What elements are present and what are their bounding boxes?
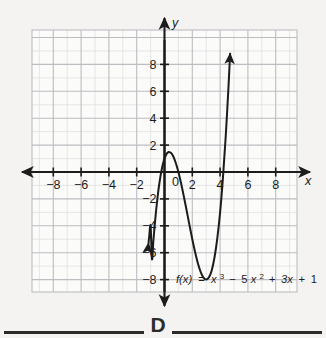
graph-figure: −8−6−4−224688642−2−4−6−8 0 x y f(x) = x … [0, 0, 326, 312]
tick-label: −2 [142, 192, 156, 206]
tick-label: 2 [150, 139, 157, 153]
term2-exponent: 2 [259, 272, 264, 281]
term2-coefficient: 5 [241, 273, 247, 285]
tick-label: −4 [142, 219, 156, 233]
tick-label: −6 [142, 246, 156, 260]
tick-label: −2 [130, 178, 144, 192]
coordinate-plane-svg: −8−6−4−224688642−2−4−6−8 0 x y f(x) = x … [0, 0, 326, 312]
tick-label: 4 [217, 178, 224, 192]
origin-label: 0 [172, 175, 179, 189]
y-axis-label: y [171, 16, 179, 30]
x-axis-label: x [304, 174, 312, 188]
term4-token: 1 [311, 273, 317, 285]
term3-token: 3x [281, 273, 293, 285]
tick-label: 8 [150, 58, 157, 72]
equals-token: = [198, 273, 205, 285]
tick-label: 2 [189, 178, 196, 192]
tick-label: 6 [150, 85, 157, 99]
tick-label: −4 [102, 178, 116, 192]
tick-label: −6 [74, 178, 88, 192]
footer-rule-left [4, 331, 144, 334]
minus-token: − [229, 273, 236, 285]
fx-token: f(x) [176, 273, 192, 285]
figure-choice-letter: D [144, 314, 172, 335]
tick-label: 6 [244, 178, 251, 192]
tick-label: −8 [46, 178, 60, 192]
figure-footer-rule: D [0, 326, 326, 338]
plus-token-1: + [269, 273, 276, 285]
tick-label: −8 [142, 273, 156, 287]
plus-token-2: + [299, 273, 306, 285]
footer-rule-right [172, 331, 322, 334]
tick-label: 4 [150, 112, 157, 126]
worksheet-page: −8−6−4−224688642−2−4−6−8 0 x y f(x) = x … [0, 0, 326, 338]
term1-base: x [210, 273, 217, 285]
term1-exponent: 3 [220, 272, 225, 281]
tick-label: 8 [272, 178, 279, 192]
term2-base: x [250, 273, 257, 285]
